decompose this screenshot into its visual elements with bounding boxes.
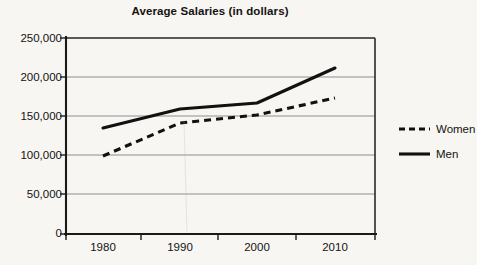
legend-label-women: Women: [436, 123, 475, 135]
scan-artifacts: [184, 120, 187, 233]
gridlines: [66, 38, 375, 194]
chart-canvas: [0, 0, 477, 265]
salary-line-chart: Average Salaries (in dollars) 250,000 20…: [0, 0, 477, 265]
y-axis: [60, 36, 66, 236]
plot-border: [66, 38, 375, 234]
x-axis: [64, 234, 377, 240]
legend-label-men: Men: [436, 148, 458, 160]
